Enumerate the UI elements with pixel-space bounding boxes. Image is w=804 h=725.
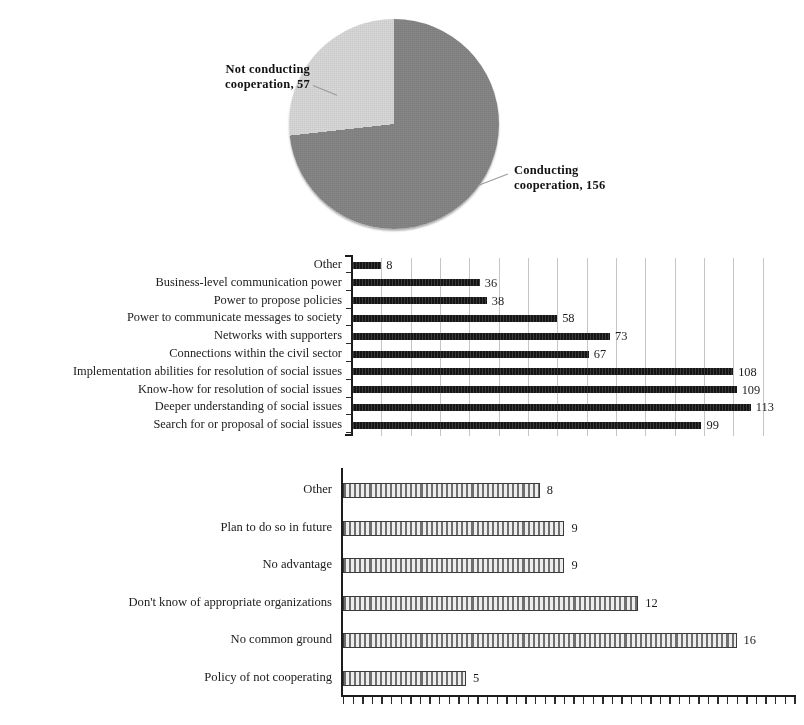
bar-chart-advantages-row: Other8 (0, 256, 804, 274)
figure-page: Not conducting cooperation, 57 Conductin… (0, 0, 804, 725)
bar-chart-advantages-value-label: 67 (594, 347, 606, 361)
bar-chart-reasons-category-label: No common ground (0, 621, 332, 659)
bar-chart-reasons-row: No advantage9 (0, 546, 804, 584)
pie-label-conducting: Conducting cooperation, 156 (514, 163, 679, 193)
bar-chart-advantages-bar (353, 368, 733, 375)
bar-chart-reasons-row: No common ground16 (0, 621, 804, 659)
bar-chart-advantages-category-label: Know-how for resolution of social issues (0, 381, 342, 399)
bar-chart-reasons-x-axis-ticks (343, 697, 796, 704)
bar-chart-advantages-row: Networks with supporters73 (0, 327, 804, 345)
pie-label-not-conducting-line1: Not conducting (175, 62, 310, 77)
bar-chart-reasons: Other8Plan to do so in future9No advanta… (0, 468, 804, 725)
bar-chart-advantages-row: Power to propose policies38 (0, 292, 804, 310)
bar-chart-advantages-bar (353, 315, 557, 322)
pie-label-conducting-line2: cooperation, 156 (514, 178, 679, 193)
bar-chart-advantages-category-label: Other (0, 256, 342, 274)
bar-chart-advantages-category-label: Deeper understanding of social issues (0, 398, 342, 416)
bar-chart-advantages-bar (353, 279, 480, 286)
bar-chart-advantages-bar (353, 386, 737, 393)
bar-chart-reasons-row: Don't know of appropriate organizations1… (0, 584, 804, 622)
pie-label-not-conducting-line2: cooperation, 57 (175, 77, 310, 92)
bar-chart-advantages-value-label: 58 (562, 311, 574, 325)
bar-chart-reasons-category-label: No advantage (0, 546, 332, 584)
bar-chart-advantages: Other8Business-level communication power… (0, 252, 804, 447)
bar-chart-advantages-row: Search for or proposal of social issues9… (0, 416, 804, 434)
bar-chart-reasons-row: Other8 (0, 471, 804, 509)
bar-chart-advantages-row: Power to communicate messages to society… (0, 309, 804, 327)
bar-chart-reasons-bar (343, 521, 564, 536)
bar-chart-reasons-row: Plan to do so in future9 (0, 509, 804, 547)
bar-chart-advantages-value-label: 36 (485, 276, 497, 290)
bar-chart-advantages-bar (353, 422, 701, 429)
bar-chart-advantages-value-label: 108 (738, 365, 757, 379)
bar-chart-reasons-bar (343, 633, 737, 648)
bar-chart-advantages-value-label: 109 (742, 383, 761, 397)
bar-chart-advantages-value-label: 113 (756, 400, 774, 414)
bar-chart-advantages-row: Business-level communication power36 (0, 274, 804, 292)
bar-chart-reasons-category-label: Don't know of appropriate organizations (0, 584, 332, 622)
bar-chart-reasons-category-label: Policy of not cooperating (0, 659, 332, 697)
bar-chart-reasons-value-label: 12 (645, 596, 657, 611)
bar-chart-reasons-bar (343, 671, 466, 686)
bar-chart-advantages-value-label: 73 (615, 329, 627, 343)
bar-chart-reasons-bar (343, 558, 564, 573)
bar-chart-advantages-axis-cap-bottom (345, 434, 353, 436)
bar-chart-reasons-value-label: 9 (571, 521, 577, 536)
bar-chart-advantages-category-label: Power to communicate messages to society (0, 309, 342, 327)
bar-chart-advantages-category-label: Networks with supporters (0, 327, 342, 345)
pie-label-conducting-line1: Conducting (514, 163, 679, 178)
bar-chart-advantages-category-label: Search for or proposal of social issues (0, 416, 342, 434)
bar-chart-advantages-category-label: Connections within the civil sector (0, 345, 342, 363)
bar-chart-advantages-value-label: 99 (706, 418, 718, 432)
pie-disc (289, 19, 499, 229)
bar-chart-advantages-category-label: Implementation abilities for resolution … (0, 363, 342, 381)
bar-chart-advantages-bar (353, 351, 589, 358)
bar-chart-advantages-row: Know-how for resolution of social issues… (0, 381, 804, 399)
bar-chart-reasons-value-label: 9 (571, 558, 577, 573)
bar-chart-reasons-bar (343, 483, 540, 498)
bar-chart-advantages-axis-tick (346, 432, 352, 433)
bar-chart-advantages-row: Implementation abilities for resolution … (0, 363, 804, 381)
bar-chart-reasons-value-label: 5 (473, 671, 479, 686)
bar-chart-advantages-bar (353, 404, 751, 411)
bar-chart-reasons-category-label: Plan to do so in future (0, 509, 332, 547)
bar-chart-reasons-bar (343, 596, 638, 611)
bar-chart-advantages-bar (353, 262, 381, 269)
bar-chart-reasons-value-label: 16 (744, 633, 756, 648)
bar-chart-advantages-row: Connections within the civil sector67 (0, 345, 804, 363)
bar-chart-reasons-category-label: Other (0, 471, 332, 509)
pie-label-not-conducting: Not conducting cooperation, 57 (175, 62, 310, 92)
bar-chart-advantages-bar (353, 333, 610, 340)
bar-chart-advantages-bar (353, 297, 487, 304)
pie-texture-overlay (289, 19, 499, 229)
bar-chart-advantages-row: Deeper understanding of social issues113 (0, 398, 804, 416)
bar-chart-advantages-value-label: 38 (492, 294, 504, 308)
pie-chart: Not conducting cooperation, 57 Conductin… (0, 0, 804, 245)
bar-chart-reasons-row: Policy of not cooperating5 (0, 659, 804, 697)
bar-chart-advantages-category-label: Power to propose policies (0, 292, 342, 310)
bar-chart-reasons-value-label: 8 (547, 483, 553, 498)
bar-chart-advantages-value-label: 8 (386, 258, 392, 272)
bar-chart-advantages-category-label: Business-level communication power (0, 274, 342, 292)
